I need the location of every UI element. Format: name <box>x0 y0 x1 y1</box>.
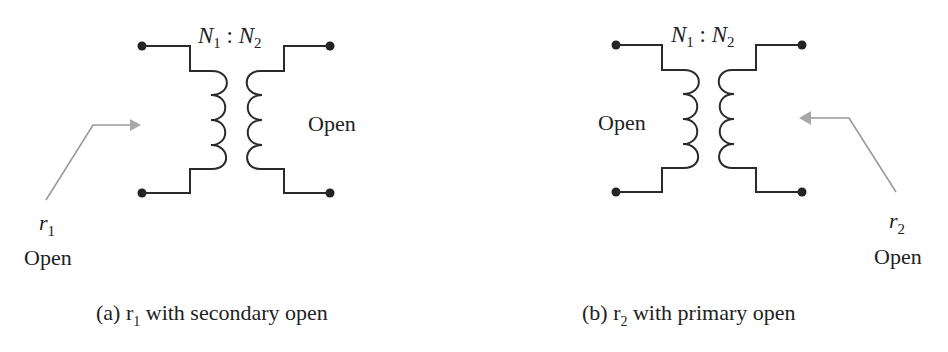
n2-subscript: 2 <box>254 35 262 51</box>
coil-b-secondary <box>719 70 734 168</box>
n1-symbol: N <box>198 23 213 48</box>
caption-a: (a) r1 with secondary open <box>96 302 328 329</box>
wire-a-secondary-bottom <box>260 169 330 193</box>
coil-a-primary <box>211 71 227 169</box>
wire-a-primary-bottom <box>142 169 212 193</box>
caption-b-prefix: (b) r <box>582 300 620 325</box>
arrow-b-r2 <box>811 118 896 192</box>
wire-a-secondary-top <box>260 46 330 71</box>
turns-ratio-a: N1 : N2 <box>198 24 262 51</box>
wire-b-secondary-top <box>732 45 802 70</box>
wire-b-secondary-bottom <box>732 168 802 192</box>
caption-b-suffix: with primary open <box>627 300 795 325</box>
coil-b-primary <box>683 70 699 168</box>
open-label-a-r1: Open <box>24 247 72 269</box>
arrowhead-b-icon <box>799 111 811 125</box>
n2-symbol: N <box>239 23 254 48</box>
r1-symbol: r <box>39 210 48 235</box>
transformer-a <box>46 42 335 201</box>
n1-subscript: 1 <box>213 35 221 51</box>
r2-symbol: r <box>889 208 898 233</box>
n2-subscript: 2 <box>727 34 735 50</box>
wire-b-primary-bottom <box>616 168 684 192</box>
arrow-a-r1 <box>46 125 130 200</box>
r1-subscript: 1 <box>48 223 56 239</box>
arrowhead-a-icon <box>130 119 141 131</box>
n1-symbol: N <box>671 22 686 47</box>
r2-subscript: 2 <box>898 221 906 237</box>
open-label-a-secondary: Open <box>308 113 356 135</box>
n2-symbol: N <box>712 22 727 47</box>
open-label-b-primary: Open <box>598 112 646 134</box>
ratio-separator: : <box>221 23 239 48</box>
transformer-b <box>612 41 897 197</box>
r2-label: r2 <box>889 210 905 237</box>
coil-a-secondary <box>247 71 262 169</box>
n1-subscript: 1 <box>686 34 694 50</box>
open-label-b-r2: Open <box>874 246 922 268</box>
r1-label: r1 <box>39 212 55 239</box>
caption-a-suffix: with secondary open <box>140 300 328 325</box>
caption-a-prefix: (a) r <box>96 300 133 325</box>
ratio-separator: : <box>694 22 712 47</box>
turns-ratio-b: N1 : N2 <box>671 23 735 50</box>
caption-b: (b) r2 with primary open <box>582 302 796 329</box>
